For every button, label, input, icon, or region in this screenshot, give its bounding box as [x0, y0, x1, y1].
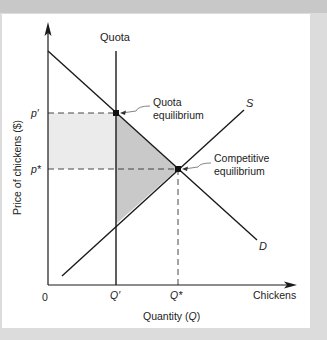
q-star-tick-label: Q*: [170, 289, 183, 301]
quota-equilibrium-label-line1: Quota: [153, 96, 182, 108]
x-axis-title: Quantity (Q): [143, 310, 200, 322]
competitive-eq-leader: [184, 163, 211, 169]
competitive-eq-arrowhead-icon: [182, 167, 188, 172]
quota-label: Quota: [100, 31, 131, 43]
x-axis-title-main: Quantity (: [143, 310, 189, 322]
quota-diagram: Quota Quota equilibrium Competitive equi…: [0, 0, 327, 340]
p-star-tick-label: p*: [30, 163, 42, 175]
quota-equilibrium-label-line2: equilibrium: [153, 109, 204, 121]
competitive-equilibrium-label-line2: equilibrium: [214, 165, 265, 177]
deadweight-loss-shade: [116, 113, 178, 224]
supply-label: S: [246, 97, 254, 109]
competitive-equilibrium-label-line1: Competitive: [214, 152, 270, 164]
quota-equilibrium-point: [113, 110, 119, 116]
competitive-equilibrium-point: [175, 166, 181, 172]
x-axis-title-var: Q: [189, 310, 197, 322]
y-axis-title: Price of chickens ($): [11, 120, 23, 215]
origin-label: 0: [42, 291, 48, 303]
transfer-area-shade: [48, 113, 116, 169]
x-axis-end-label: Chickens: [253, 289, 296, 301]
quota-eq-leader: [122, 106, 150, 113]
p-prime-tick-label: p′: [30, 107, 40, 119]
quota-eq-arrowhead-icon: [120, 111, 126, 116]
demand-label: D: [259, 240, 267, 252]
x-axis-title-close: ): [197, 310, 201, 322]
q-prime-tick-label: Q′: [110, 289, 121, 301]
